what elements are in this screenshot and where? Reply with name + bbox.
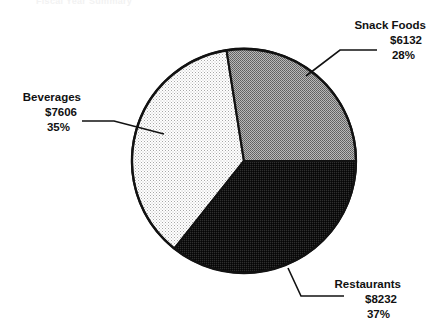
- callout-beverages: Beverages $7606 35%: [0, 90, 82, 135]
- callout-snack-foods-value: $6132: [326, 33, 422, 48]
- callout-beverages-label: Beverages: [0, 90, 81, 105]
- callout-restaurants-percent: 37%: [296, 307, 390, 322]
- callout-snack-foods-percent: 28%: [326, 48, 415, 63]
- pie-chart-figure: Fiscal Year Summary: [0, 0, 432, 331]
- callout-beverages-percent: 35%: [0, 120, 70, 135]
- callout-restaurants-label: Restaurants: [296, 277, 401, 292]
- callout-snack-foods-label: Snack Foods: [326, 18, 426, 33]
- pie-slice-snack-foods[interactable]: [227, 49, 357, 161]
- callout-beverages-value: $7606: [0, 105, 77, 120]
- callout-restaurants: Restaurants $8232 37%: [296, 277, 401, 322]
- callout-restaurants-value: $8232: [296, 292, 397, 307]
- callout-snack-foods: Snack Foods $6132 28%: [326, 18, 426, 63]
